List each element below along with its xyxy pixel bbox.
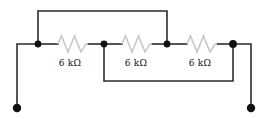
resistor-r2-zigzag: [122, 36, 152, 52]
node-dot-n2: [101, 41, 108, 48]
wire-right-lead: [233, 44, 251, 108]
resistor-symbol-group: [58, 36, 217, 52]
node-dot-n1: [35, 41, 42, 48]
resistor-r1-zigzag: [58, 36, 88, 52]
circuit-diagram: 6 kΩ 6 kΩ 6 kΩ: [0, 0, 272, 119]
wire-top-bypass: [38, 11, 167, 44]
terminal-dot-group: [13, 104, 255, 112]
node-dot-n3: [164, 41, 171, 48]
resistor-label-r3: 6 kΩ: [174, 58, 226, 69]
terminal-dot-right: [247, 104, 255, 112]
wire-left-lead: [17, 44, 38, 108]
resistor-r3-zigzag: [187, 36, 217, 52]
resistor-label-r1: 6 kΩ: [44, 58, 96, 69]
node-dot-n4: [229, 40, 237, 48]
resistor-label-r2: 6 kΩ: [110, 58, 162, 69]
terminal-dot-left: [13, 104, 21, 112]
